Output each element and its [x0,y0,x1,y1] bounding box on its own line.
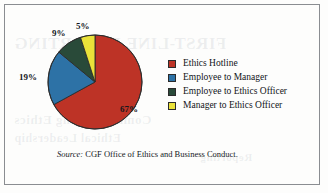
legend-item: Ethics Hotline [168,57,287,70]
legend-swatch-icon [168,102,176,110]
chart-legend: Ethics HotlineEmployee to ManagerEmploye… [168,57,287,113]
source-note: Source: CGF Office of Ethics and Busines… [57,149,238,159]
slice-label-employee-to-manager: 19% [19,72,37,82]
slice-label-employee-to-ethics-officer: 9% [52,28,66,38]
legend-item-label: Employee to Manager [183,72,267,83]
pie-chart-graphic [47,34,143,130]
source-note-text: CGF Office of Ethics and Business Conduc… [83,149,238,159]
pie-chart-figure: FIRST-LINE REPORTING Communicating Ethic… [0,0,328,193]
slice-label-manager-to-ethics-officer: 5% [76,21,90,31]
source-note-label: Source: [57,149,83,159]
legend-item-label: Ethics Hotline [183,58,238,69]
legend-swatch-icon [168,74,176,82]
legend-item: Manager to Ethics Officer [168,99,287,112]
legend-swatch-icon [168,60,176,68]
legend-swatch-icon [168,88,176,96]
legend-item-label: Manager to Ethics Officer [183,100,282,111]
pie-svg [47,34,143,130]
slice-label-ethics-hotline: 67% [120,104,138,114]
legend-item: Employee to Ethics Officer [168,85,287,98]
legend-item-label: Employee to Ethics Officer [183,86,287,97]
legend-item: Employee to Manager [168,71,287,84]
